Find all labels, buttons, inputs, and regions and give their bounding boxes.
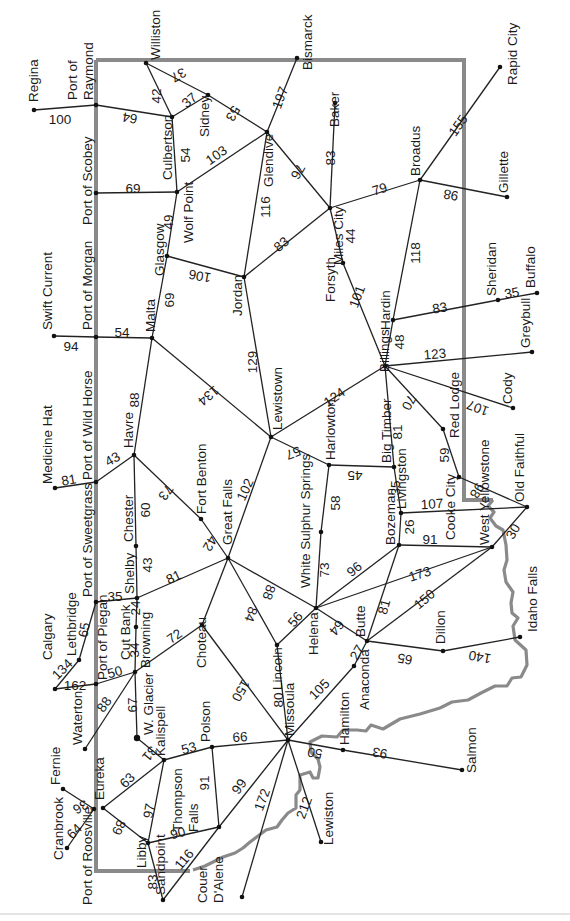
city-dot-fernie [61,787,66,792]
city-dot-shelby [135,596,140,601]
city-dot-red-lodge [441,427,446,432]
road-missoula-coeur_dalene [242,740,288,897]
distance-label: 91 [197,775,212,790]
city-label-baker: Baker [327,91,342,127]
road-regina-port_raymond [34,105,96,110]
city-label-bismarck: Bismarck [300,14,315,70]
city-label-old-faithful: Old Faithful [512,433,527,502]
city-dot-eureka [101,806,106,811]
city-label-regina: Regina [26,59,41,102]
city-dot-lewistown [269,435,274,440]
city-dot-great-falls [226,556,231,561]
distance-label: 50 [306,744,323,761]
city-dot-hamilton [341,748,346,753]
distance-label: 26 [402,519,417,534]
distance-label: 73 [155,482,176,503]
city-label-polson: Polson [198,701,213,742]
city-label-anaconda: Anaconda [357,649,372,710]
city-dot-bismarck [295,56,300,61]
distance-label: 91 [422,532,437,547]
city-dot-cody [511,406,516,411]
distance-label: 70 [399,392,420,413]
road-great_falls-lincoln [228,558,277,645]
road-bozeman-butte [367,545,399,641]
city-label-port-scobey: Port of Scobey [80,136,95,225]
distance-label: 60 [138,502,153,517]
city-label-dillon: Dillon [433,610,448,644]
city-label-rapid-city: Rapid City [505,22,520,85]
city-dot-w-glacier [134,735,140,741]
city-dot-calgary [53,687,58,692]
city-label-havre: Havre [121,412,136,448]
city-label-hardin: Hardin [378,290,393,330]
city-dot-williston [144,61,149,66]
city-label-bozeman: Bozeman [383,488,398,545]
distance-label: 64 [121,109,139,126]
distance-label: 83 [271,234,292,255]
distance-label: 107 [465,397,491,419]
distance-label: 63 [117,770,138,791]
distance-label: 69 [125,181,140,196]
city-label-eureka: Eureka [92,757,107,800]
distance-label: 129 [245,351,260,374]
city-dot-old-faithful [525,505,530,510]
road-billings-greybull [385,352,532,366]
city-label-missoula: Missoula [282,682,297,736]
distance-label: 81 [375,598,393,616]
city-label-lewistown: Lewistown [270,367,285,430]
road-swift_current-port_morgan [54,336,96,337]
distance-label: 72 [164,626,185,647]
city-label-broadus: Broadus [408,125,423,176]
distance-label: 56 [285,609,306,630]
city-label-cooke-city: Cooke City [443,474,458,540]
distance-label: 116 [258,196,273,218]
city-label-swift-current: Swift Current [40,252,55,330]
city-label-helena: Helena [306,612,321,655]
city-label-greybull: Greybull [518,298,533,348]
city-dot-wolf-point [175,190,180,195]
city-label-lethbridge: Lethbridge [64,592,79,656]
city-label-williston: Williston [148,10,163,60]
city-dot-coeur-dalene [240,895,245,900]
distance-label: 37 [168,65,189,86]
city-label-west-yellowstone: West Yellowstone [477,439,492,545]
city-label-culbertson: Culbertson [160,115,175,180]
road-polson-thompson_falls [212,747,219,827]
distance-label: 45 [347,468,362,483]
city-label-choteau: Choteau [194,617,209,668]
distance-label: 98 [442,186,459,203]
distance-label: 66 [232,729,248,745]
city-dot-missoula [286,738,291,743]
city-dot-anaconda [352,664,357,669]
distance-label: 54 [114,325,130,340]
city-label-white-sulphur: White Sulphur Springs [298,453,313,588]
road-butte-dillon [367,641,443,651]
city-label-calgary: Calgary [40,613,55,660]
distance-label: 173 [407,563,433,584]
city-dot-lincoln [275,643,280,648]
city-label-fort-benton: Fort Benton [194,443,209,514]
city-dot-harlowton [327,463,332,468]
city-dot-medicine-hat [53,486,58,491]
distance-label: 48 [392,334,407,349]
road-network [34,58,537,900]
city-dot-helena [314,606,319,611]
city-label-chester: Chester [121,494,136,542]
city-dot-regina [32,108,37,113]
road-kalispell-libby [148,760,164,843]
city-label-lewiston: Lewiston [321,792,336,845]
road-helena-west_yellowstone [316,547,492,608]
city-dot-greybull [530,350,535,355]
distance-label: 197 [269,85,291,111]
distance-label: 64 [326,617,347,639]
city-label-libby: Libby [134,835,149,868]
road-distance-map: 1006442373753197541036976116837915598491… [0,0,570,921]
distance-label: 79 [370,180,389,199]
road-harlowton-big_timber [329,465,394,467]
city-label-miles-city: Miles City [331,206,346,265]
distance-label: 65 [396,650,413,667]
distance-label: 155 [446,112,471,139]
city-dot-dillon [441,649,446,654]
city-label-idaho-falls: Idaho Falls [525,566,540,632]
distance-label: 58 [328,495,343,510]
